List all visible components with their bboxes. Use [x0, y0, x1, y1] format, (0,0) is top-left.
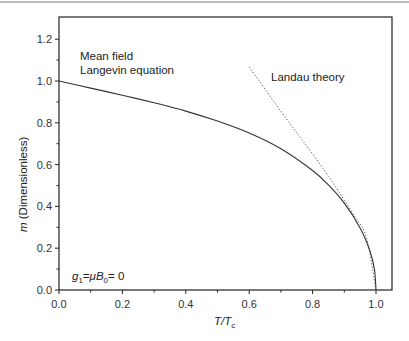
- x-tick-label: 0.2: [115, 298, 130, 310]
- mean-field-label: Mean field: [80, 50, 133, 62]
- x-tick-label: 0.6: [242, 298, 257, 310]
- y-axis-title: m (Dimensionless): [17, 137, 29, 232]
- x-tick-label: 0.0: [51, 298, 66, 310]
- y-tick-label: 0.8: [37, 117, 52, 129]
- x-axis-title: T/Tc: [214, 315, 235, 330]
- magnetization-chart: 0.00.20.40.60.81.01.2 0.00.20.40.60.81.0…: [0, 0, 409, 341]
- landau-label: Landau theory: [271, 71, 345, 83]
- x-tick-label: 0.4: [178, 298, 193, 310]
- y-tick-label: 0.0: [37, 284, 52, 296]
- x-tick-label: 1.0: [368, 298, 383, 310]
- mean-field-curve: [59, 81, 376, 290]
- y-axis-ticks: 0.00.20.40.60.81.01.2: [37, 33, 59, 296]
- y-tick-label: 0.6: [37, 159, 52, 171]
- langevin-label: Langevin equation: [80, 64, 174, 76]
- x-tick-label: 0.8: [305, 298, 320, 310]
- field-condition-label: g1=μB0= 0: [72, 270, 124, 285]
- landau-curve: [249, 67, 376, 290]
- y-tick-label: 1.0: [37, 75, 52, 87]
- y-tick-label: 0.2: [37, 242, 52, 254]
- x-axis-ticks: 0.00.20.40.60.81.0: [51, 290, 383, 310]
- y-tick-label: 1.2: [37, 33, 52, 45]
- y-tick-label: 0.4: [37, 200, 52, 212]
